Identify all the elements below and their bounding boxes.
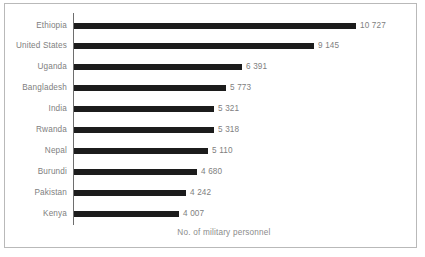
category-label: Bangladesh (5, 78, 67, 98)
bar-track: 5 110 (74, 141, 416, 161)
x-axis-title: No. of military personnel (74, 228, 374, 237)
bar-row: Bangladesh 5 773 (5, 78, 416, 98)
bar-value-label: 4 242 (190, 183, 211, 203)
bar-track: 5 318 (74, 120, 416, 140)
bar (74, 64, 242, 70)
bar-value-label: 5 110 (212, 141, 233, 161)
bar-track: 4 680 (74, 162, 416, 182)
bar-track: 6 391 (74, 57, 416, 77)
bar (74, 106, 214, 112)
bar (74, 148, 208, 154)
bar-value-label: 6 391 (246, 57, 267, 77)
bar-value-label: 4 680 (201, 162, 222, 182)
bar-value-label: 5 318 (218, 120, 239, 140)
bar-row: Ethiopia 10 727 (5, 16, 416, 36)
bar-value-label: 4 007 (183, 204, 204, 224)
bar (74, 85, 226, 91)
bar (74, 169, 197, 175)
bar (74, 43, 314, 49)
bar-track: 4 242 (74, 183, 416, 203)
category-label: Pakistan (5, 183, 67, 203)
bar-row: Kenya 4 007 (5, 204, 416, 224)
category-label: Burundi (5, 162, 67, 182)
bar-track: 10 727 (74, 16, 416, 36)
category-label: Uganda (5, 57, 67, 77)
bar-track: 5 321 (74, 99, 416, 119)
bar-value-label: 5 321 (218, 99, 239, 119)
category-label: Kenya (5, 204, 67, 224)
category-label: India (5, 99, 67, 119)
bar (74, 127, 214, 133)
bar (74, 23, 356, 29)
bar-row: Nepal 5 110 (5, 141, 416, 161)
bar-row: Pakistan 4 242 (5, 183, 416, 203)
bar-row: United States 9 145 (5, 36, 416, 56)
bar-value-label: 5 773 (230, 78, 251, 98)
category-label: Rwanda (5, 120, 67, 140)
bar-chart-plot-area: Ethiopia 10 727 United States 9 145 Ugan… (5, 4, 416, 247)
bar-track: 5 773 (74, 78, 416, 98)
category-label: Ethiopia (5, 16, 67, 36)
bar-value-label: 9 145 (318, 36, 339, 56)
bar-row: Burundi 4 680 (5, 162, 416, 182)
bar-row: Uganda 6 391 (5, 57, 416, 77)
bar-track: 9 145 (74, 36, 416, 56)
bar-track: 4 007 (74, 204, 416, 224)
bar (74, 211, 179, 217)
category-label: Nepal (5, 141, 67, 161)
category-label: United States (5, 36, 67, 56)
bar (74, 190, 186, 196)
bar-row: Rwanda 5 318 (5, 120, 416, 140)
bar-row: India 5 321 (5, 99, 416, 119)
bar-value-label: 10 727 (360, 16, 386, 36)
chart-frame: Ethiopia 10 727 United States 9 145 Ugan… (4, 3, 417, 248)
